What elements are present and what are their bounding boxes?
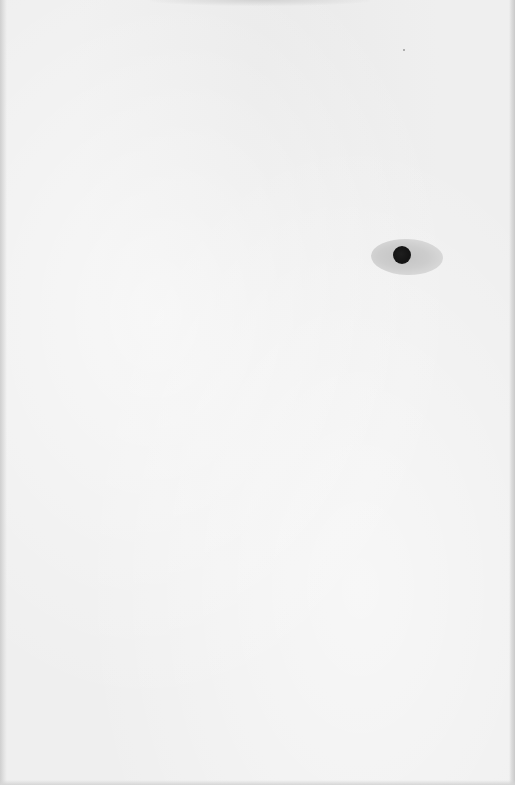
scan-edge-left: [0, 0, 7, 785]
scan-edge-bottom: [0, 780, 515, 785]
scan-edge-top: [150, 0, 370, 6]
ink-blot-icon: [393, 246, 411, 264]
scanned-page: [0, 0, 515, 785]
scan-edge-right: [509, 0, 515, 785]
paper-speck: [403, 49, 405, 51]
